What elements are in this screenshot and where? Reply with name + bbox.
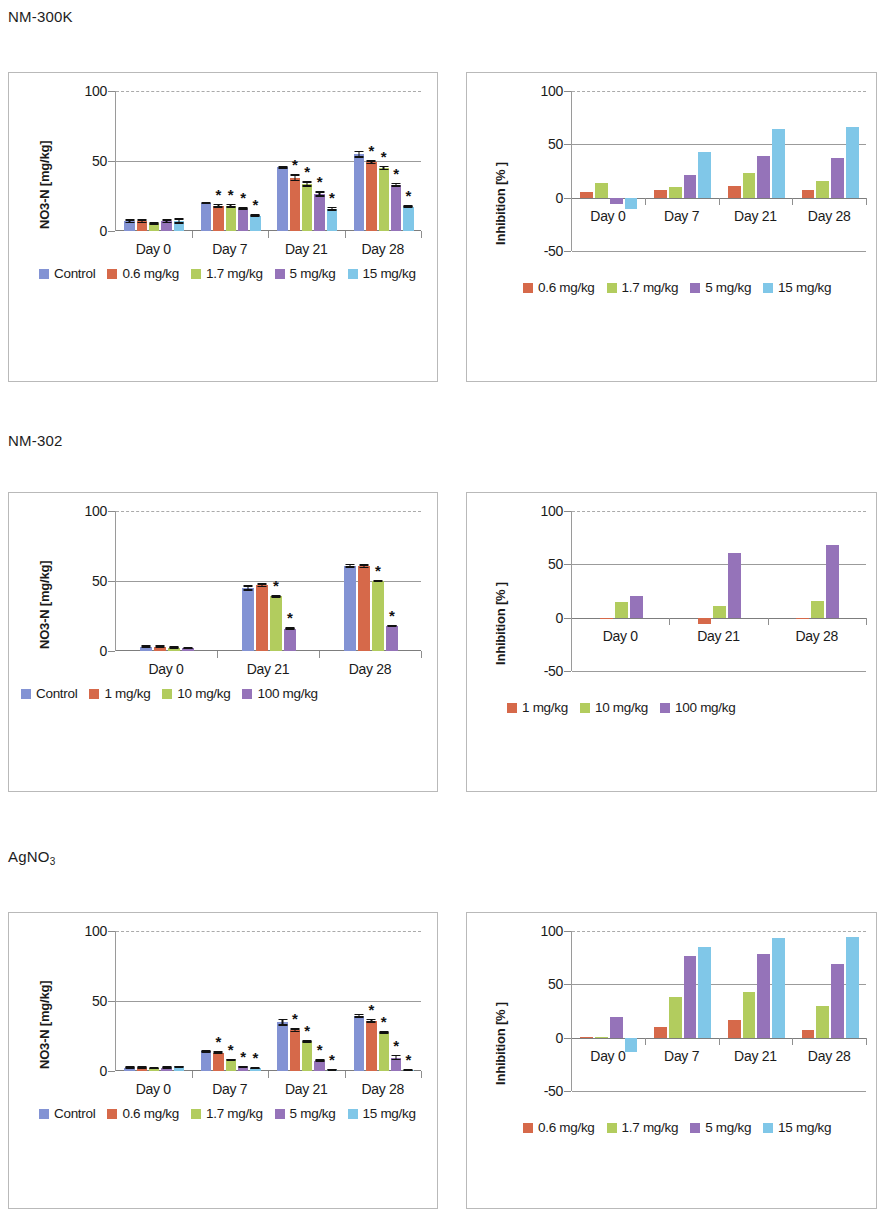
legend-item-15-mg-kg: 15 mg/kg [348, 1107, 416, 1121]
bar-slot: * [237, 931, 249, 1071]
legend-item-1-7-mg-kg: 1.7 mg/kg [191, 267, 263, 281]
x-axis-end-tick [421, 651, 422, 658]
x-group-separator [192, 1071, 193, 1078]
bar-slot [668, 91, 683, 251]
bar-slot [771, 931, 786, 1091]
error-bar-cap-bottom [392, 185, 401, 187]
bar-slot [200, 931, 212, 1071]
bar-0-6-mg-kg [802, 1030, 815, 1037]
significance-star: * [240, 194, 246, 202]
legend-label: Control [36, 687, 77, 701]
y-tick-label--50: -50 [517, 243, 563, 259]
error-bar-cap-top [162, 219, 171, 221]
error-bar-cap-bottom [137, 222, 146, 224]
bar-slot [742, 91, 757, 251]
legend-swatch [523, 1123, 533, 1133]
x-axis-label-day-7: Day 7 [645, 208, 719, 224]
legend-nm300k-no3n: Control0.6 mg/kg1.7 mg/kg5 mg/kg15 mg/kg [39, 267, 429, 281]
error-bar-cap-bottom [367, 1021, 376, 1023]
y-axis-title-nm302-inhibition: Inhibition [% ] [493, 582, 508, 665]
legend-label: 1.7 mg/kg [206, 267, 263, 281]
y-tick-100 [564, 511, 571, 512]
bar-5-mg-kg [314, 194, 324, 231]
bar-control [354, 154, 364, 231]
error-bar-cap-bottom [226, 1059, 235, 1061]
error-bar [286, 627, 295, 629]
bar-slot: * [365, 91, 377, 231]
y-axis-title-agno3-inhibition: Inhibition [% ] [493, 1002, 508, 1085]
error-bar-cap-bottom [355, 156, 364, 158]
error-bar [125, 219, 134, 223]
y-tick-label-0: 0 [517, 610, 563, 626]
section-title-2: NM-302 [8, 432, 63, 449]
bar-slot [825, 511, 840, 671]
bar-5-mg-kg [610, 198, 623, 204]
bar-5-mg-kg [757, 156, 770, 198]
bar-slot: * [283, 511, 297, 651]
y-tick-0 [564, 198, 571, 199]
bar-1-7-mg-kg [379, 1033, 389, 1072]
legend-item-1-mg-kg: 1 mg/kg [89, 687, 150, 701]
significance-star: * [317, 1046, 323, 1054]
bar-0-6-mg-kg [580, 192, 593, 197]
y-tick-100 [108, 931, 115, 932]
bar-10-mg-kg [372, 581, 384, 651]
error-bar-cap-bottom [142, 647, 151, 649]
significance-star: * [273, 582, 279, 590]
y-tick-0 [108, 1071, 115, 1072]
bar-group-day-0 [572, 511, 670, 671]
subscript: 3 [50, 856, 56, 867]
significance-star: * [215, 1038, 221, 1046]
plot-area-nm302-inhibition [571, 511, 866, 671]
error-bar-cap-bottom [150, 223, 159, 225]
error-bar-cap-top [379, 166, 388, 168]
legend-label: 0.6 mg/kg [538, 1121, 595, 1135]
legend-item-control: Control [21, 687, 77, 701]
y-tick-label-100: 100 [517, 503, 563, 519]
error-bar-cap-bottom [374, 581, 383, 583]
x-axis-label-day-28: Day 28 [792, 208, 866, 224]
bar-slot [579, 931, 594, 1091]
significance-star: * [287, 614, 293, 622]
legend-swatch [763, 283, 773, 293]
bar-slot: * [249, 931, 261, 1071]
legend-swatch [690, 283, 700, 293]
bar-group-day-7 [646, 931, 720, 1091]
bar-slot [727, 91, 742, 251]
error-bar-cap-bottom [239, 1066, 248, 1068]
x-group-separator [719, 198, 720, 205]
x-group-separator [768, 618, 769, 625]
panel-agno3-no3n: NO3-N [mg/kg]************050100Day 0Day … [8, 912, 438, 1209]
x-axis-end-tick [866, 618, 867, 625]
significance-star: * [405, 192, 411, 200]
error-bar [303, 181, 312, 187]
significance-star: * [292, 161, 298, 169]
legend-label: 100 mg/kg [675, 701, 735, 715]
bar-5-mg-kg [684, 175, 697, 197]
error-bar [125, 1066, 134, 1068]
legend-swatch [107, 1109, 117, 1119]
error-bar [239, 207, 248, 210]
bar-100-mg-kg [284, 629, 296, 651]
error-bar [244, 585, 253, 591]
error-bar-cap-bottom [290, 180, 299, 182]
bar-10-mg-kg [615, 602, 628, 618]
legend-label: 1.7 mg/kg [622, 1121, 679, 1135]
y-axis-title-nm300k-inhibition: Inhibition [% ] [493, 162, 508, 245]
panel-nm300k-inhibition: Inhibition [% ]-50050100Day 0Day 7Day 21… [466, 72, 877, 382]
bar-5-mg-kg [610, 1017, 623, 1037]
legend-item-1-7-mg-kg: 1.7 mg/kg [607, 281, 679, 295]
error-bar-cap-bottom [346, 566, 355, 568]
bar-slot: * [269, 511, 283, 651]
x-axis-end-tick [866, 198, 867, 205]
y-tick-100 [564, 91, 571, 92]
error-bar [315, 191, 324, 197]
bar-1-mg-kg [600, 618, 613, 619]
error-bar-cap-bottom [202, 203, 211, 205]
bar-1-7-mg-kg [816, 181, 829, 198]
bar-slot [727, 931, 742, 1091]
bar-slot [276, 91, 288, 231]
error-bar [367, 1019, 376, 1023]
bar-5-mg-kg [684, 956, 697, 1038]
bar-group-day-28: **** [346, 931, 423, 1071]
